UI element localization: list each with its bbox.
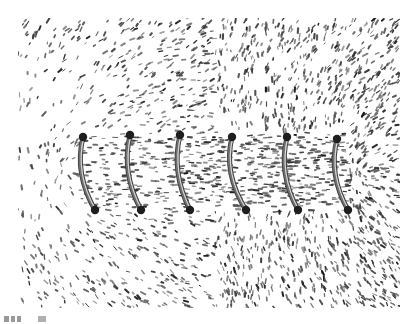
clipped-caption-marks — [0, 314, 414, 324]
clipped-caption — [0, 312, 414, 324]
iron-filings-photo — [18, 18, 400, 308]
